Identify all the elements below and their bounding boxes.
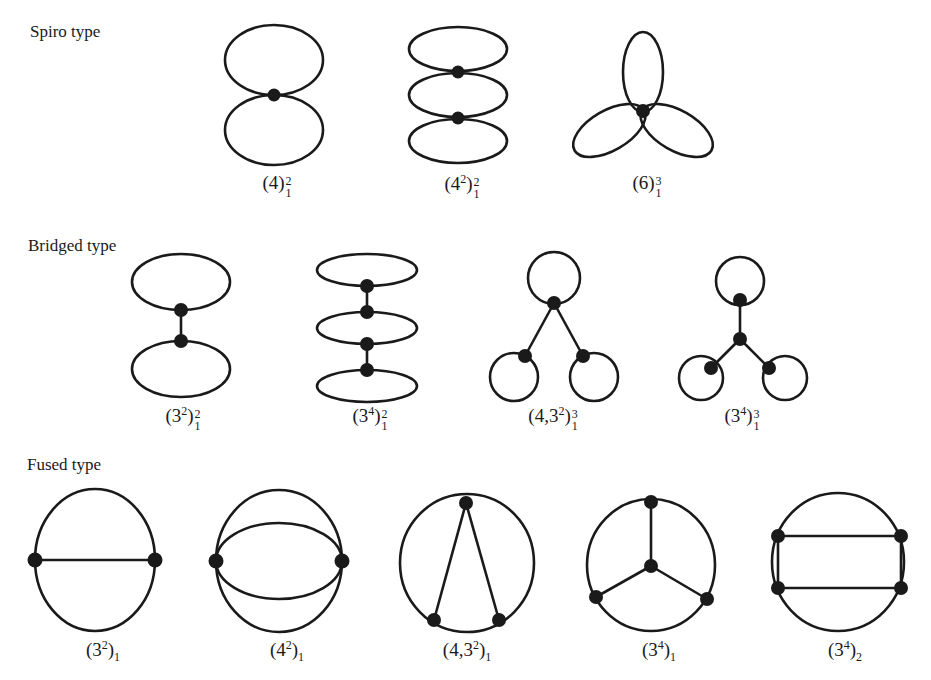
label-fused-3-fourth-2: (34)2 [828,638,862,665]
graph-fused-4-3-squared [400,494,534,632]
graph-spiro-4 [225,25,323,165]
label-bridged-3-fourth-star: (34)31 [724,404,759,430]
label-spiro-6: (6)31 [632,172,661,197]
label-bridged-4-3-squared: (4,32)31 [528,404,577,430]
graph-fused-3-squared [28,489,163,631]
graph-fused-3-fourth-1 [587,495,715,631]
label-fused-4-3-squared: (4,32)1 [443,638,491,665]
label-spiro-4: (4)21 [262,172,291,197]
label-fused-3-squared: (32)1 [86,638,120,665]
graph-bridged-3-fourth-star [679,257,807,400]
graph-bridged-3-squared [132,254,230,397]
graph-bridged-4-3-squared [490,252,618,401]
label-fused-4-squared: (42)1 [270,638,304,665]
graph-fused-4-squared [209,490,350,632]
graph-bridged-3-fourth [317,254,417,402]
graph-fused-3-fourth-2 [771,493,908,631]
label-bridged-3-fourth: (34)21 [352,404,387,430]
graph-spiro-4-squared [409,27,507,163]
graph-diagram-canvas [0,0,931,680]
label-fused-3-fourth-1: (34)1 [642,638,676,665]
label-bridged-3-squared: (32)21 [165,404,200,430]
label-spiro-4-squared: (42)21 [444,172,479,198]
graph-spiro-6 [565,32,722,168]
